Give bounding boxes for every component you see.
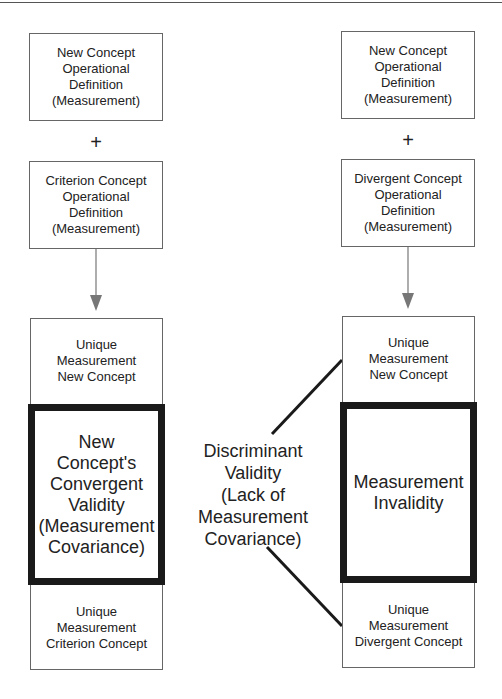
arrow-down-left-icon — [90, 295, 102, 311]
left-plus-sign: + — [81, 132, 111, 152]
right-unique-new-concept: Unique Measurement New Concept — [342, 316, 475, 402]
left-unique-criterion-concept: Unique Measurement Criterion Concept — [30, 585, 163, 670]
left-criterion-concept-box: Criterion Concept Operational Definition… — [29, 161, 163, 249]
discriminant-validity-label: Discriminant Validity (Lack of Measureme… — [183, 440, 323, 550]
right-plus-sign: + — [393, 130, 423, 150]
right-divergent-concept-box: Divergent Concept Operational Definition… — [341, 159, 475, 247]
measurement-invalidity-box: Measurement Invalidity — [340, 402, 477, 583]
convergent-validity-box: New Concept's Convergent Validity (Measu… — [28, 404, 165, 585]
left-unique-new-concept: Unique Measurement New Concept — [30, 318, 163, 404]
arrow-down-right-icon — [402, 293, 414, 309]
right-new-concept-box: New Concept Operational Definition (Meas… — [341, 31, 475, 119]
right-unique-divergent-concept: Unique Measurement Divergent Concept — [342, 583, 475, 668]
left-new-concept-box: New Concept Operational Definition (Meas… — [29, 33, 163, 121]
